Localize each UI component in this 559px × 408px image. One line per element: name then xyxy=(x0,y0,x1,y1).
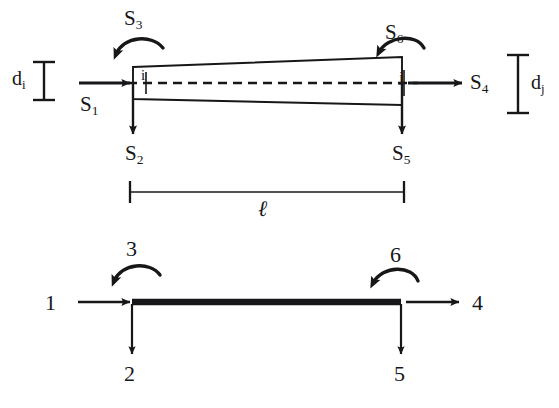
force-S4-label: S4 xyxy=(470,72,488,95)
dof3-curved-arrow xyxy=(114,266,160,281)
tapered-beam-outline xyxy=(133,57,402,105)
dof4-label: 4 xyxy=(472,292,483,314)
node-j-label: j xyxy=(399,70,403,85)
node-i-label: i xyxy=(141,68,145,83)
depth-dj-subscript: j xyxy=(541,82,545,96)
force-S5-label: S5 xyxy=(392,143,410,166)
dof6-curved-arrow xyxy=(373,269,418,283)
top-beam-group xyxy=(33,38,529,203)
moment-S3-label: S3 xyxy=(124,8,142,31)
bottom-dof-group xyxy=(78,266,459,354)
dof6-label: 6 xyxy=(390,244,401,266)
beam-element-figure: di dj i j S1 S2 S3 S4 S5 S6 ℓ 1 2 3 4 5 … xyxy=(0,0,559,408)
depth-di-caliper xyxy=(33,62,55,100)
depth-di-subscript: i xyxy=(22,78,26,92)
moment-S3-curved-arrow xyxy=(116,39,163,54)
depth-di-label: di xyxy=(12,68,26,92)
dof5-label: 5 xyxy=(394,363,405,385)
depth-dj-caliper xyxy=(507,55,529,113)
dof3-label: 3 xyxy=(126,238,137,260)
dof2-label: 2 xyxy=(124,363,135,385)
figure-drawing-canvas xyxy=(0,0,559,408)
force-S1-label: S1 xyxy=(80,94,98,117)
depth-dj-label: dj xyxy=(531,72,545,96)
beam-length-label: ℓ xyxy=(258,198,267,220)
dof1-label: 1 xyxy=(45,292,56,314)
force-S2-label: S2 xyxy=(125,143,143,166)
moment-S6-label: S6 xyxy=(385,22,403,45)
